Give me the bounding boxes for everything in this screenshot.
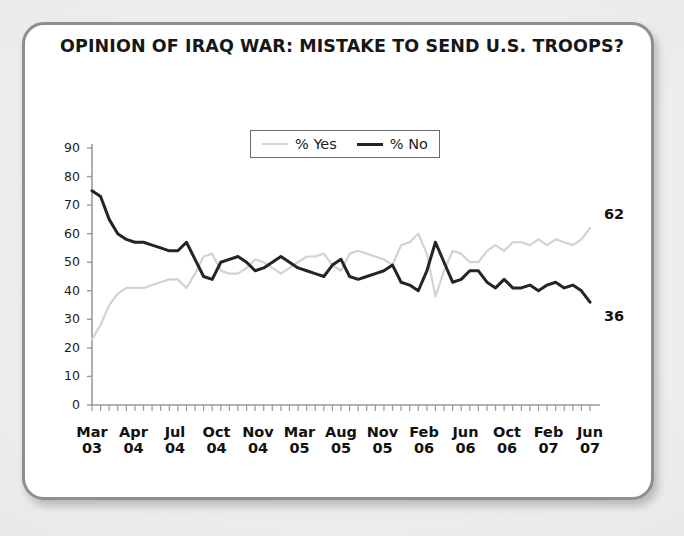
end-label-yes: 62 — [604, 206, 624, 222]
y-tick-label: 30 — [50, 311, 80, 326]
x-tick-label: Mar05 — [278, 424, 322, 456]
x-tick-year: 06 — [444, 440, 488, 456]
x-tick-month: Feb — [527, 424, 571, 440]
y-tick-label: 0 — [50, 397, 80, 412]
x-tick-year: 04 — [153, 440, 197, 456]
x-tick-month: Nov — [361, 424, 405, 440]
x-tick-month: Aug — [319, 424, 363, 440]
x-tick-label: Aug05 — [319, 424, 363, 456]
x-tick-label: Feb07 — [527, 424, 571, 456]
x-tick-label: Feb06 — [402, 424, 446, 456]
x-tick-month: Jun — [444, 424, 488, 440]
x-tick-month: Apr — [112, 424, 156, 440]
x-tick-label: Jul04 — [153, 424, 197, 456]
x-tick-year: 06 — [485, 440, 529, 456]
y-tick-label: 10 — [50, 368, 80, 383]
x-tick-label: Jun06 — [444, 424, 488, 456]
x-tick-month: Oct — [485, 424, 529, 440]
x-tick-label: Mar03 — [70, 424, 114, 456]
legend-label-yes: % Yes — [295, 136, 337, 152]
x-tick-year: 03 — [70, 440, 114, 456]
legend-line-no-icon — [357, 143, 383, 146]
legend-label-no: % No — [390, 136, 428, 152]
x-tick-label: Nov05 — [361, 424, 405, 456]
x-tick-year: 06 — [402, 440, 446, 456]
chart-legend: % Yes % No — [250, 130, 440, 158]
y-tick-label: 50 — [50, 254, 80, 269]
x-tick-label: Oct06 — [485, 424, 529, 456]
x-tick-year: 04 — [112, 440, 156, 456]
legend-line-yes-icon — [262, 143, 288, 145]
y-tick-label: 80 — [50, 169, 80, 184]
y-tick-label: 40 — [50, 283, 80, 298]
x-tick-year: 05 — [319, 440, 363, 456]
x-tick-month: Mar — [278, 424, 322, 440]
x-tick-year: 05 — [361, 440, 405, 456]
x-tick-month: Jun — [568, 424, 612, 440]
x-tick-year: 07 — [527, 440, 571, 456]
x-tick-label: Jun07 — [568, 424, 612, 456]
x-tick-year: 04 — [236, 440, 280, 456]
x-tick-month: Jul — [153, 424, 197, 440]
chart-title: OPINION OF IRAQ WAR: MISTAKE TO SEND U.S… — [0, 36, 684, 56]
legend-item-yes: % Yes — [262, 136, 337, 152]
x-tick-year: 05 — [278, 440, 322, 456]
x-tick-label: Apr04 — [112, 424, 156, 456]
x-tick-year: 04 — [195, 440, 239, 456]
y-tick-label: 20 — [50, 340, 80, 355]
y-tick-label: 90 — [50, 140, 80, 155]
end-label-no: 36 — [604, 308, 624, 324]
legend-item-no: % No — [357, 136, 428, 152]
y-tick-label: 70 — [50, 197, 80, 212]
x-tick-year: 07 — [568, 440, 612, 456]
x-tick-month: Nov — [236, 424, 280, 440]
x-tick-label: Oct04 — [195, 424, 239, 456]
x-tick-month: Feb — [402, 424, 446, 440]
y-tick-label: 60 — [50, 226, 80, 241]
x-tick-label: Nov04 — [236, 424, 280, 456]
x-tick-month: Oct — [195, 424, 239, 440]
screenshot-root: OPINION OF IRAQ WAR: MISTAKE TO SEND U.S… — [0, 0, 684, 536]
x-tick-month: Mar — [70, 424, 114, 440]
